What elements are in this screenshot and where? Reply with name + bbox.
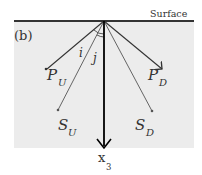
svg-text:x: x xyxy=(98,150,106,165)
svg-text:D: D xyxy=(145,127,154,138)
svg-text:S: S xyxy=(135,116,145,134)
x3-label: x 3 xyxy=(98,150,111,172)
svg-text:3: 3 xyxy=(106,162,111,172)
s-down-dot xyxy=(151,110,154,113)
svg-text:P: P xyxy=(147,66,159,84)
s-up-dot xyxy=(57,109,60,112)
svg-text:S: S xyxy=(58,116,68,134)
angle-i-label: i xyxy=(79,46,83,60)
svg-text:U: U xyxy=(68,127,77,138)
svg-text:P: P xyxy=(46,66,58,84)
svg-text:U: U xyxy=(58,77,67,88)
svg-text:D: D xyxy=(158,77,167,88)
panel-label: (b) xyxy=(14,28,32,43)
diagram-canvas: (b) Surface i j P U P D S U S D x 3 xyxy=(0,0,202,175)
surface-label: Surface xyxy=(150,8,188,19)
